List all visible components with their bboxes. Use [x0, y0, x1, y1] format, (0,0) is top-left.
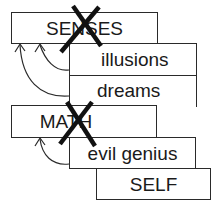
box-math: MATH [11, 105, 157, 138]
box-evil-genius: evil genius [69, 137, 196, 169]
arrowhead-illusions [35, 44, 45, 52]
arrowhead-evil-genius [35, 138, 45, 146]
box-self: SELF [96, 168, 211, 200]
arrow-illusions-to-senses [40, 45, 69, 70]
arrow-evil-genius-to-math [40, 139, 69, 164]
label-illusions: illusions [101, 50, 169, 69]
box-illusions: illusions [69, 43, 197, 76]
label-evil-genius: evil genius [88, 144, 178, 163]
box-senses: SENSES [11, 12, 158, 44]
arrow-dreams-to-senses [20, 45, 69, 96]
label-senses: SENSES [46, 19, 123, 38]
label-math: MATH [40, 112, 92, 131]
label-self: SELF [130, 175, 178, 194]
arrowhead-dreams [15, 44, 25, 52]
label-dreams: dreams [97, 81, 160, 100]
box-dreams: dreams [69, 75, 197, 107]
